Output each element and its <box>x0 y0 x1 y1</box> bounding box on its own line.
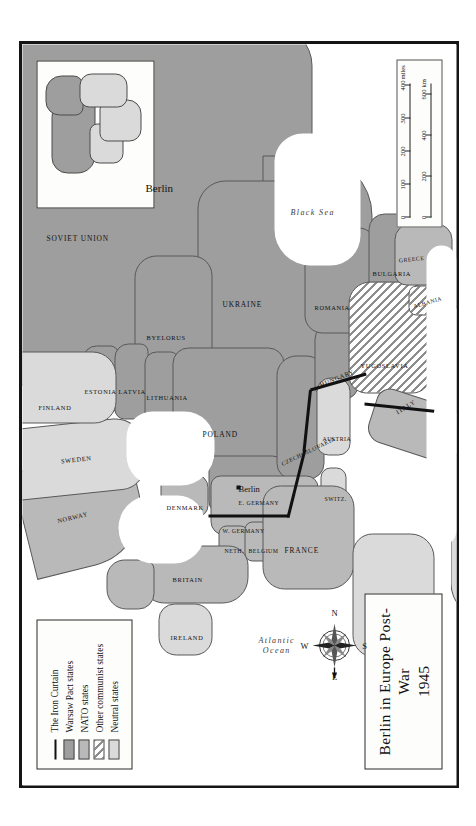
scale-tick-km-3: 600 <box>419 89 426 99</box>
berlin-city-label: Berlin <box>238 483 259 493</box>
warsaw-pact-swatch-icon <box>63 739 74 759</box>
country-label-poland: POLAND <box>202 429 237 438</box>
compass-label-south: S <box>362 640 367 650</box>
country-label-east-germany: E. GERMANY <box>238 499 279 505</box>
country-label-romania: ROMANIA <box>314 303 349 310</box>
scale-tick-miles-0: 0 <box>398 215 405 218</box>
country-label-west-germany: W. GERMANY <box>222 527 264 533</box>
map-title-year: 1945 <box>413 602 432 760</box>
country-shape-latvia <box>114 343 148 419</box>
compass-rose-icon: N E S W <box>298 609 370 681</box>
legend: The Iron Curtain Warsaw Pact states NATO… <box>36 619 132 769</box>
map-title: Berlin in Europe Post-War <box>374 602 413 760</box>
title-cartouche: Berlin in Europe Post-War 1945 <box>364 593 442 769</box>
legend-label-nato: NATO states <box>79 684 89 732</box>
nato-swatch-icon <box>78 739 89 759</box>
map-canvas: SOVIET UNION BYELORUS UKRAINE ESTONIA LA… <box>22 44 456 785</box>
neutral-swatch-icon <box>108 739 119 759</box>
country-shape-ireland <box>158 603 212 655</box>
legend-item-warsaw-pact: Warsaw Pact states <box>63 630 74 759</box>
scale-line-km <box>430 83 431 217</box>
country-label-ireland: IRELAND <box>170 633 203 640</box>
scale-row-miles: 0 100 200 300 400 miles <box>401 67 418 219</box>
country-label-byelorus: BYELORUS <box>146 333 185 340</box>
legend-label-warsaw-pact: Warsaw Pact states <box>64 660 74 732</box>
legend-item-other-communist: Other communist states <box>93 630 104 759</box>
country-label-latvia: LATVIA <box>118 387 145 394</box>
compass-label-west: W <box>300 640 308 650</box>
scale-tick-miles-3: 300 <box>398 113 405 123</box>
country-label-soviet-union: SOVIET UNION <box>46 233 109 242</box>
scale-row-km: 0 200 400 600 km <box>422 67 439 219</box>
country-label-yugoslavia: YUGOSLAVIA <box>360 361 408 368</box>
country-shape-britain-scotland <box>106 559 154 609</box>
scale-unit-miles: miles <box>398 65 405 79</box>
legend-item-neutral: Neutral states <box>108 630 119 759</box>
country-label-netherlands: NETH. <box>224 547 243 553</box>
compass-label-east: E <box>331 671 336 681</box>
country-label-britain: BRITAIN <box>172 575 202 582</box>
legend-label-iron-curtain: The Iron Curtain <box>49 669 59 732</box>
map-page: SOVIET UNION BYELORUS UKRAINE ESTONIA LA… <box>0 0 476 826</box>
iron-curtain-line-1 <box>208 514 288 517</box>
compass-label-north: N <box>331 609 337 617</box>
scale-tick-miles-4: 400 <box>398 80 405 90</box>
legend-label-neutral: Neutral states <box>109 681 119 732</box>
other-communist-hatch-swatch-icon <box>93 739 104 759</box>
scale-tick-km-1: 200 <box>419 171 426 181</box>
ocean-label-black-sea: Black Sea <box>290 207 334 217</box>
scale-tick-km-2: 400 <box>419 130 426 140</box>
scale-unit-km: km <box>419 79 426 87</box>
map-neatline-frame: SOVIET UNION BYELORUS UKRAINE ESTONIA LA… <box>19 41 459 788</box>
legend-item-iron-curtain: The Iron Curtain <box>49 630 59 759</box>
country-label-ukraine: UKRAINE <box>222 299 262 308</box>
country-label-estonia: ESTONIA <box>84 387 116 394</box>
scale-bar: 0 100 200 300 400 miles 0 200 400 600 <box>396 59 442 227</box>
inset-title: Berlin <box>145 181 173 193</box>
scale-tick-miles-2: 200 <box>398 146 405 156</box>
country-label-finland: FINLAND <box>38 403 71 410</box>
scale-tick-km-0: 0 <box>419 215 426 218</box>
country-label-belgium: BELGIUM <box>248 547 278 553</box>
country-label-bulgaria: BULGARIA <box>372 269 411 276</box>
inset-sector-french <box>79 73 127 107</box>
ocean-label-atlantic: Atlantic Ocean <box>258 635 295 655</box>
country-label-lithuania: LITHUANIA <box>146 393 187 400</box>
inset-sector-soviet-east <box>45 75 83 115</box>
country-label-denmark: DENMARK <box>166 503 203 510</box>
sea-baltic <box>126 411 214 485</box>
sea-mediterranean <box>426 245 456 545</box>
country-label-austria: AUSTRIA <box>322 435 351 441</box>
iron-curtain-swatch-icon <box>54 739 56 759</box>
country-label-france: FRANCE <box>284 545 319 554</box>
legend-item-nato: NATO states <box>78 630 89 759</box>
country-label-switzerland: SWITZ. <box>324 495 346 501</box>
berlin-inset-map[interactable]: Berlin <box>36 60 154 208</box>
legend-label-other-communist: Other communist states <box>94 643 104 732</box>
sea-black <box>274 133 360 265</box>
scale-tick-miles-1: 100 <box>398 179 405 189</box>
